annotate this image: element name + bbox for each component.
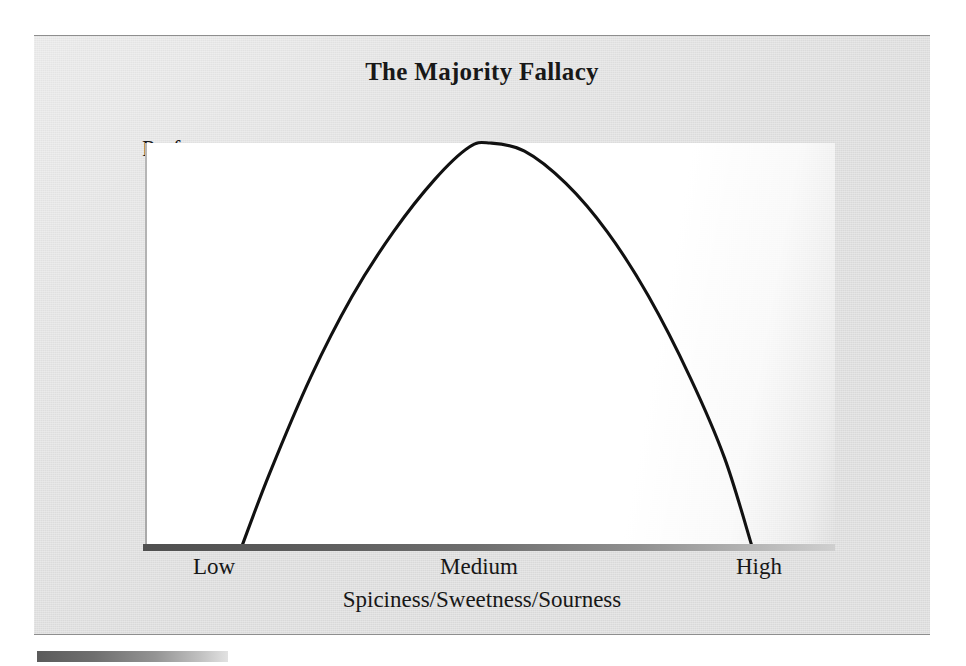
x-tick-label-low: Low bbox=[159, 554, 269, 580]
x-axis-bar bbox=[143, 544, 835, 551]
x-tick-label-medium: Medium bbox=[424, 554, 534, 580]
preference-curve-path bbox=[242, 142, 753, 547]
x-axis-title: Spiciness/Sweetness/Sourness bbox=[34, 587, 930, 613]
figure-panel: The Majority Fallacy Preferences Low Med… bbox=[34, 35, 930, 635]
x-tick-label-high: High bbox=[704, 554, 814, 580]
bottom-decorative-rule bbox=[37, 651, 228, 662]
